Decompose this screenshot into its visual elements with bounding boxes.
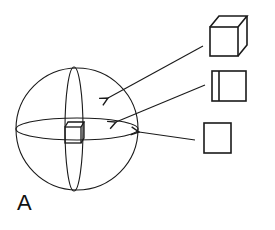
- arrow-surface-to-sphere: [139, 132, 195, 140]
- arrow-volume-to-interior: [108, 46, 203, 98]
- arrows: [108, 46, 205, 140]
- arrow-slab-to-plane: [116, 85, 205, 122]
- diagram-canvas: [0, 0, 275, 230]
- volume-cube-icon: [210, 16, 247, 56]
- sphere-outline: [16, 68, 138, 190]
- panel-label: A: [17, 192, 32, 214]
- sphere-group: [16, 67, 138, 191]
- horizontal-plane-ellipse: [16, 118, 138, 140]
- surface-square-icon: [204, 123, 231, 153]
- slab-plane-icon: [212, 71, 246, 101]
- vertical-plane-ellipse: [65, 67, 83, 191]
